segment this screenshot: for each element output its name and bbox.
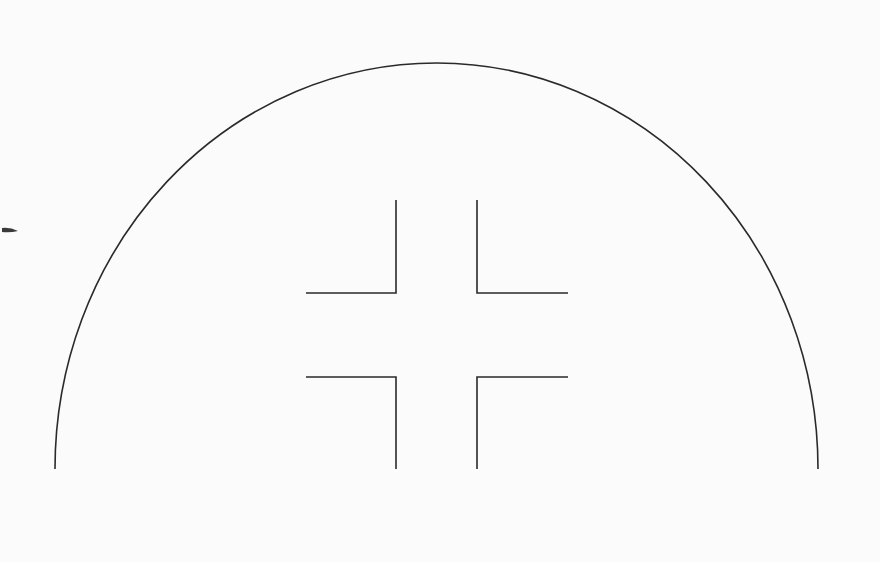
background: [0, 0, 880, 562]
diagram-canvas: [0, 0, 880, 562]
